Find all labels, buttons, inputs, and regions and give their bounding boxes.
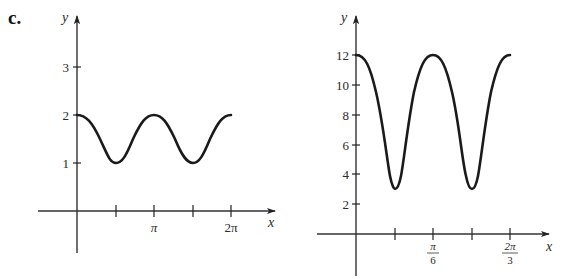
left-y-axis-label: y — [60, 10, 69, 25]
left-plot: 1 2 3 π 2π y x — [38, 10, 275, 253]
svg-text:3: 3 — [507, 254, 513, 266]
right-y-axis-label: y — [339, 10, 348, 25]
right-x-axis-label: x — [545, 239, 553, 254]
left-y-tick-label-2: 2 — [63, 108, 70, 123]
svg-text:6: 6 — [430, 254, 436, 266]
right-y-tick-label-2: 2 — [343, 197, 350, 212]
right-plot: 2 4 6 8 10 12 π 6 2π 3 y x — [317, 10, 553, 276]
left-x-axis-label: x — [267, 215, 275, 230]
left-y-tick-label-3: 3 — [63, 60, 70, 75]
right-x-tick-label-pi-over-6: π 6 — [427, 240, 439, 266]
figure-canvas: c. 1 2 3 π 2π y x — [0, 0, 565, 279]
left-x-tick-label-pi: π — [151, 220, 158, 235]
right-curve — [356, 55, 510, 189]
part-label: c. — [8, 7, 21, 28]
right-x-tick-label-2pi-over-3: 2π 3 — [502, 240, 518, 266]
svg-text:2π: 2π — [504, 240, 516, 252]
right-y-tick-label-4: 4 — [343, 167, 350, 182]
svg-text:π: π — [430, 240, 436, 252]
left-curve — [77, 115, 231, 163]
right-y-tick-label-8: 8 — [343, 108, 350, 123]
right-y-tick-label-10: 10 — [336, 78, 349, 93]
right-y-tick-label-6: 6 — [343, 138, 350, 153]
right-y-tick-label-12: 12 — [336, 48, 349, 63]
left-y-tick-label-1: 1 — [63, 156, 70, 171]
left-x-tick-label-2pi: 2π — [224, 220, 238, 235]
